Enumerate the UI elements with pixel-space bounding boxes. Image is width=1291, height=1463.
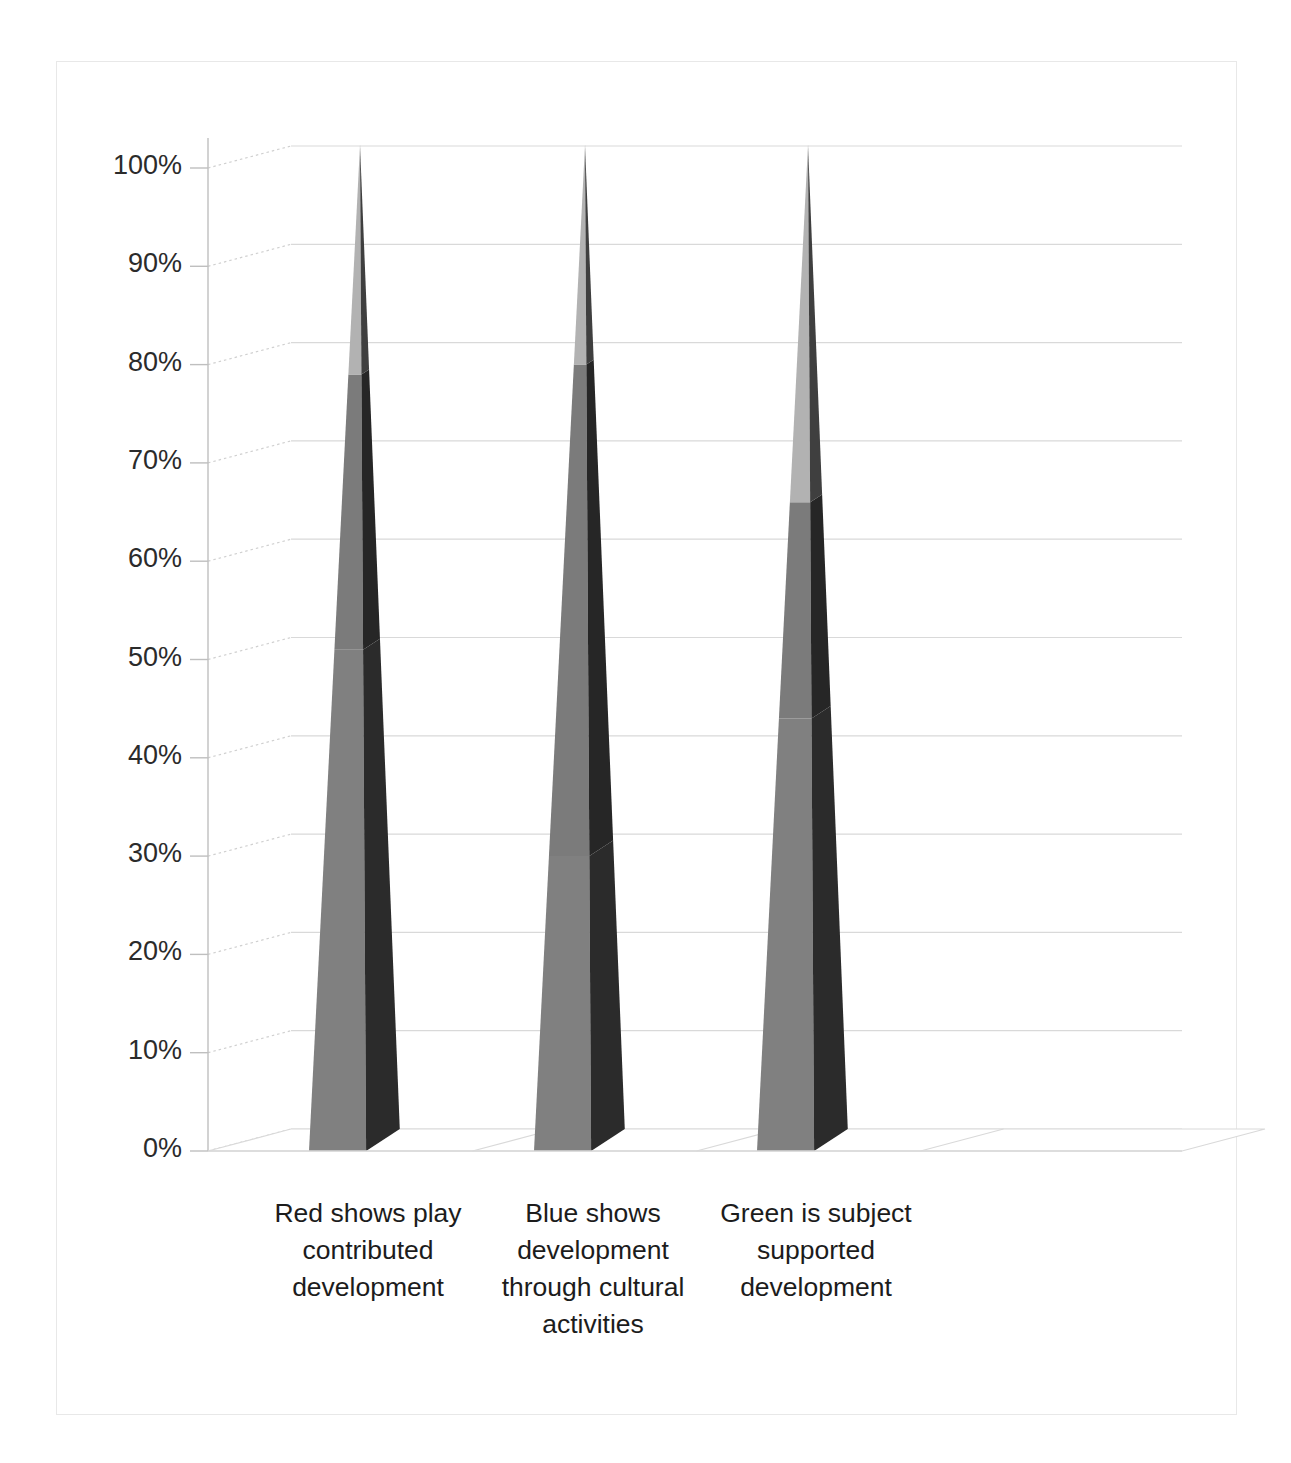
- y-axis-tick-label-0pct: 0%: [62, 1133, 182, 1164]
- y-axis-tick-label-100pct: 100%: [62, 150, 182, 181]
- y-axis-tick-label-80pct: 80%: [62, 347, 182, 378]
- category-label-line: contributed: [252, 1232, 484, 1269]
- pyramid-1-segment-2-front: [334, 374, 363, 649]
- depth-line: [208, 539, 291, 561]
- category-label-line: Blue shows: [477, 1195, 709, 1232]
- y-axis-tick-label-40pct: 40%: [62, 740, 182, 771]
- depth-line: [208, 244, 291, 266]
- depth-line: [208, 638, 291, 660]
- y-axis-tick-label-30pct: 30%: [62, 838, 182, 869]
- pyramid-2-segment-1-side: [589, 841, 624, 1151]
- depth-line: [208, 441, 291, 463]
- y-axis-tick-label-10pct: 10%: [62, 1035, 182, 1066]
- y-axis-tick-label-90pct: 90%: [62, 248, 182, 279]
- pyramid-1[interactable]: [309, 145, 400, 1151]
- depth-line: [208, 146, 291, 168]
- x-axis-category-label-3: Green is subjectsupporteddevelopment: [700, 1195, 932, 1306]
- category-label-line: development: [700, 1269, 932, 1306]
- category-label-line: through cultural: [477, 1269, 709, 1306]
- pyramid-1-segment-1-side: [363, 639, 400, 1151]
- depth-line: [208, 736, 291, 758]
- depth-line: [208, 1031, 291, 1053]
- pyramid-1-segment-3-side: [360, 145, 369, 374]
- depth-line: [208, 932, 291, 954]
- pyramid-3-segment-2-side: [810, 494, 831, 718]
- pyramid-1-segment-3-front: [348, 145, 361, 374]
- pyramid-1-segment-2-side: [361, 369, 380, 649]
- pyramids-group: [309, 145, 848, 1151]
- y-axis-tick-label-60pct: 60%: [62, 543, 182, 574]
- pyramid-2[interactable]: [534, 145, 625, 1151]
- category-label-line: development: [477, 1232, 709, 1269]
- y-axis-tick-label-20pct: 20%: [62, 936, 182, 967]
- depth-line: [208, 834, 291, 856]
- category-label-line: Red shows play: [252, 1195, 484, 1232]
- category-label-line: development: [252, 1269, 484, 1306]
- pyramid-3-segment-1-front: [757, 718, 814, 1151]
- pyramid-2-segment-3-front: [574, 145, 586, 365]
- pyramid-2-segment-1-front: [534, 856, 591, 1151]
- gridlines-group: [291, 146, 1182, 1129]
- category-label-line: activities: [477, 1306, 709, 1343]
- pyramid-2-segment-3-side: [585, 145, 594, 365]
- depth-lines-group: [208, 146, 291, 1151]
- x-axis-category-label-1: Red shows playcontributeddevelopment: [252, 1195, 484, 1306]
- pyramid-1-segment-1-front: [309, 650, 366, 1151]
- chart-root: 0%10%20%30%40%50%60%70%80%90%100% Red sh…: [0, 0, 1291, 1463]
- pyramid-3-segment-1-side: [811, 706, 847, 1151]
- depth-line: [208, 343, 291, 365]
- category-label-line: supported: [700, 1232, 932, 1269]
- pyramid-3-segment-3-side: [808, 145, 822, 502]
- pyramid-3[interactable]: [757, 145, 848, 1151]
- pyramid-2-segment-2-side: [586, 360, 613, 856]
- pyramid-3-segment-2-front: [779, 502, 812, 718]
- y-axis-tick-label-50pct: 50%: [62, 642, 182, 673]
- x-axis-category-label-2: Blue showsdevelopmentthrough culturalact…: [477, 1195, 709, 1343]
- pyramid-3-segment-3-front: [790, 145, 810, 502]
- pyramid-2-segment-2-front: [549, 365, 589, 856]
- category-label-line: Green is subject: [700, 1195, 932, 1232]
- y-axis-ticks-group: [190, 168, 208, 1151]
- y-axis-tick-label-70pct: 70%: [62, 445, 182, 476]
